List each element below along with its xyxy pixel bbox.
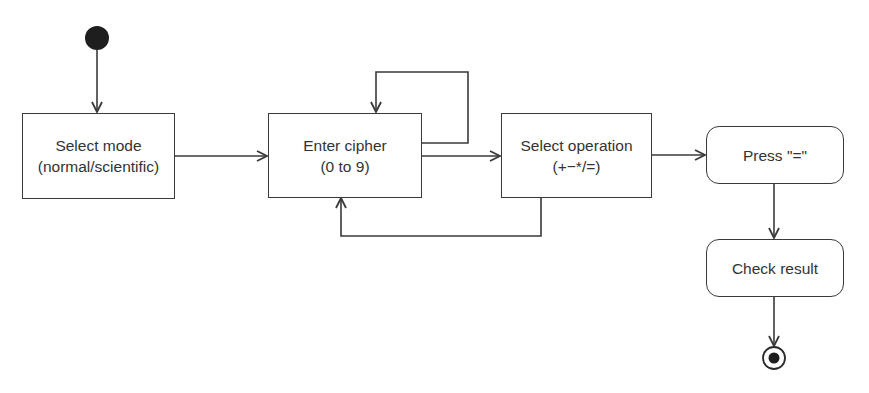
action-enter-cipher: Enter cipher (0 to 9): [268, 113, 422, 198]
check-result-label: Check result: [732, 258, 818, 279]
final-node: [763, 347, 785, 369]
press-equals-label: Press "=": [743, 145, 807, 166]
activity-check-result: Check result: [706, 239, 844, 297]
select-mode-sublabel: (normal/scientific): [38, 156, 159, 177]
select-operation-sublabel: (+−*/=): [553, 156, 601, 177]
edge-select-operation-to-enter-cipher: [341, 197, 541, 236]
initial-node: [85, 26, 109, 50]
select-mode-label: Select mode: [55, 135, 141, 156]
action-select-mode: Select mode (normal/scientific): [22, 113, 175, 199]
action-select-operation: Select operation (+−*/=): [501, 113, 652, 198]
activity-press-equals: Press "=": [706, 126, 844, 184]
select-operation-label: Select operation: [520, 135, 632, 156]
enter-cipher-label: Enter cipher: [303, 135, 387, 156]
enter-cipher-sublabel: (0 to 9): [320, 156, 369, 177]
